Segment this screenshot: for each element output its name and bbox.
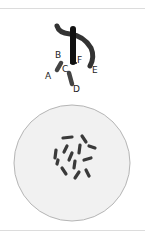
label-b: B <box>55 50 61 60</box>
bottom-divider <box>0 230 145 231</box>
cell-circle <box>14 105 130 221</box>
label-a: A <box>45 71 52 81</box>
label-f: F <box>77 55 82 65</box>
diagram-canvas: A B C D E F <box>0 0 145 233</box>
cell-figure <box>14 105 130 221</box>
chromosome-figure: A B C D E F <box>45 26 98 94</box>
cd-chromosome <box>69 73 72 84</box>
label-e: E <box>92 65 98 75</box>
label-c: C <box>62 64 68 74</box>
label-d: D <box>73 84 80 94</box>
ab-chromosome <box>57 63 61 70</box>
